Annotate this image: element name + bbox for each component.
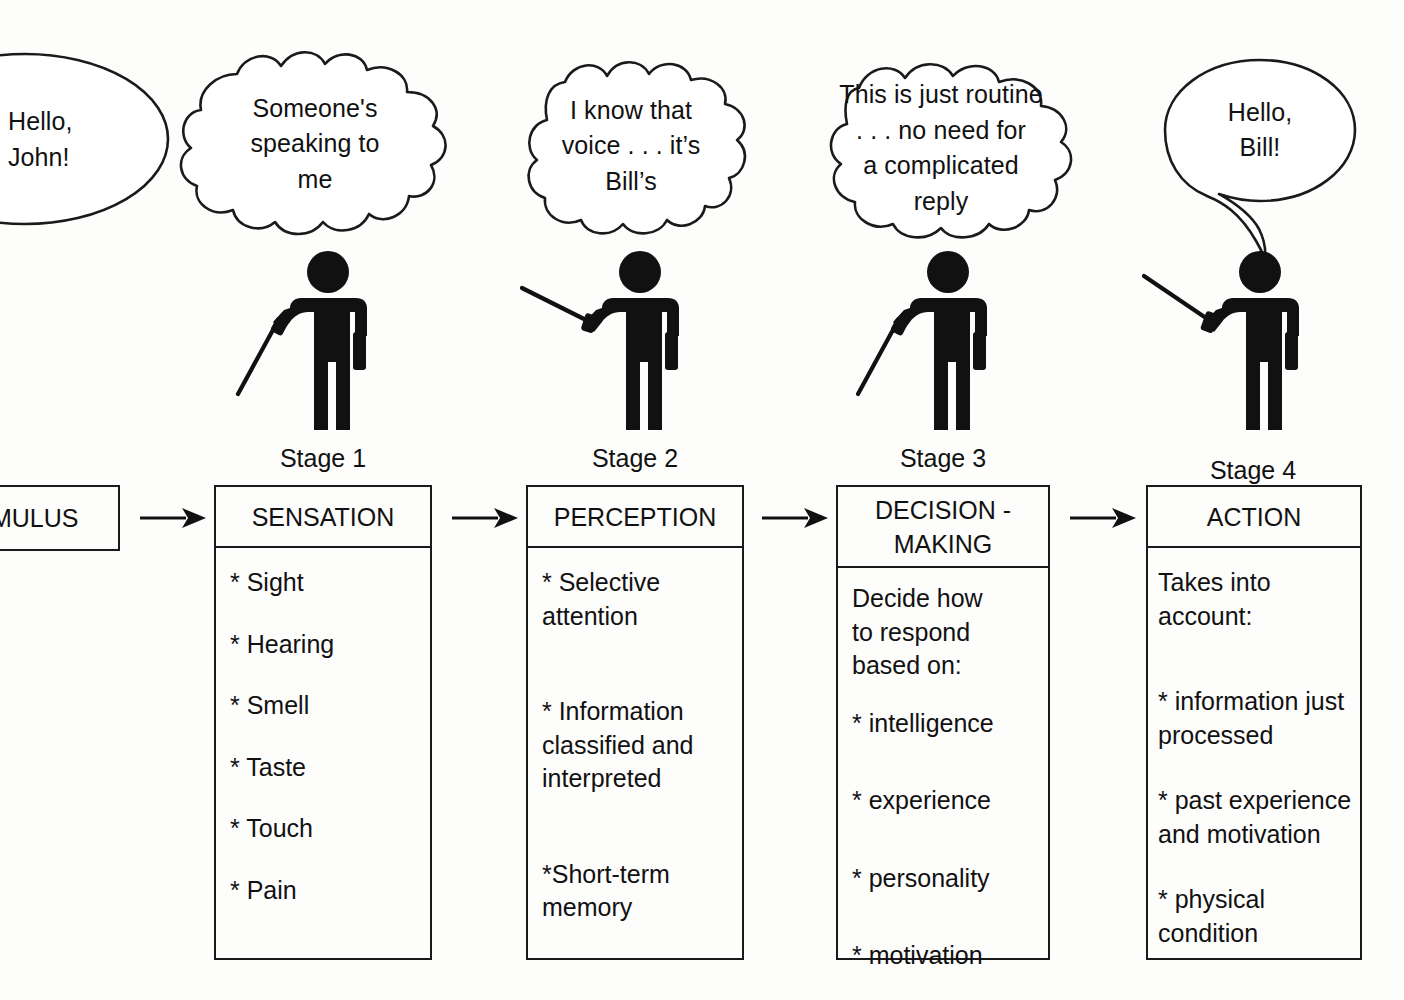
stage-box-action: ACTION Takes into account: * information…: [1146, 485, 1362, 960]
list-item: * Taste: [230, 751, 418, 785]
list-item: * Selective attention: [542, 566, 730, 633]
arrow-stimulus-to-sensation: [140, 506, 206, 530]
list-item: *Short-term memory: [542, 858, 730, 925]
list-item: * Touch: [230, 812, 418, 846]
stage-box-sensation: SENSATION * Sight * Hearing * Smell * Ta…: [214, 485, 432, 960]
list-item: * past experience and motivation: [1158, 784, 1356, 851]
stage-box-decision-making-header: DECISION - MAKING: [838, 487, 1048, 568]
list-item: * information just processed: [1158, 685, 1356, 752]
thought-bubble-stage-3-text: This is just routine . . . no need for a…: [825, 64, 1057, 232]
arrow-perception-to-decision-making: [762, 506, 828, 530]
list-item: * physical condition: [1158, 883, 1356, 950]
stage-label-2: Stage 2: [525, 444, 745, 473]
stimulus-label: STIMULUS: [0, 504, 78, 533]
stage-box-perception-header: PERCEPTION: [528, 487, 742, 548]
list-item: * Information classified and interpreted: [542, 695, 730, 796]
thought-bubble-stage-3: This is just routine . . . no need for a…: [803, 58, 1081, 240]
list-item: * motivation: [852, 939, 1036, 973]
list-item: * Pain: [230, 874, 418, 908]
arrow-sensation-to-perception: [452, 506, 518, 530]
stimulus-box: STIMULUS: [0, 485, 120, 551]
list-item: * intelligence: [852, 707, 1036, 741]
list-item: * Smell: [230, 689, 418, 723]
arrow-decision-making-to-action: [1070, 506, 1136, 530]
thought-bubble-stage-1: Someone's speaking to me: [175, 48, 455, 243]
stage-box-sensation-header: SENSATION: [216, 487, 430, 548]
speech-bubble-hello-bill-text: Hello, Bill!: [1185, 74, 1335, 186]
stage-box-sensation-body: * Sight * Hearing * Smell * Taste * Touc…: [216, 548, 430, 917]
thought-bubble-stage-1-text: Someone's speaking to me: [219, 58, 411, 230]
stick-figure-stage-4: [1172, 250, 1352, 430]
speech-bubble-hello-john-text: Hello, John!: [8, 52, 148, 227]
stage-label-1: Stage 1: [213, 444, 433, 473]
thought-bubble-stage-2-text: I know that voice . . . it’s Bill’s: [545, 66, 717, 226]
stage-box-decision-making-body: Decide how to respond based on: * intell…: [838, 568, 1048, 983]
stage-box-perception-body: * Selective attention * Information clas…: [528, 548, 742, 935]
list-item: * Sight: [230, 566, 418, 600]
list-item: Takes into account:: [1158, 566, 1356, 633]
stage-label-4: Stage 4: [1143, 456, 1363, 485]
list-item: * experience: [852, 784, 1036, 818]
stage-box-perception: PERCEPTION * Selective attention * Infor…: [526, 485, 744, 960]
list-item: * personality: [852, 862, 1036, 896]
stick-figure-stage-1: [240, 250, 420, 430]
stick-figure-stage-3: [860, 250, 1040, 430]
stage-box-action-header: ACTION: [1148, 487, 1360, 548]
thought-bubble-stage-2: I know that voice . . . it’s Bill’s: [515, 58, 747, 238]
stage-box-decision-making: DECISION - MAKING Decide how to respond …: [836, 485, 1050, 960]
diagram-canvas: Hello, John! Someone's speaking to me I …: [0, 0, 1404, 1000]
list-item: Decide how to respond based on:: [852, 582, 1036, 683]
list-item: * Hearing: [230, 628, 418, 662]
stick-figure-stage-2: [552, 250, 732, 430]
stage-label-3: Stage 3: [833, 444, 1053, 473]
speech-bubble-hello-john: Hello, John!: [0, 52, 170, 227]
stage-box-action-body: Takes into account: * information just p…: [1148, 548, 1360, 960]
